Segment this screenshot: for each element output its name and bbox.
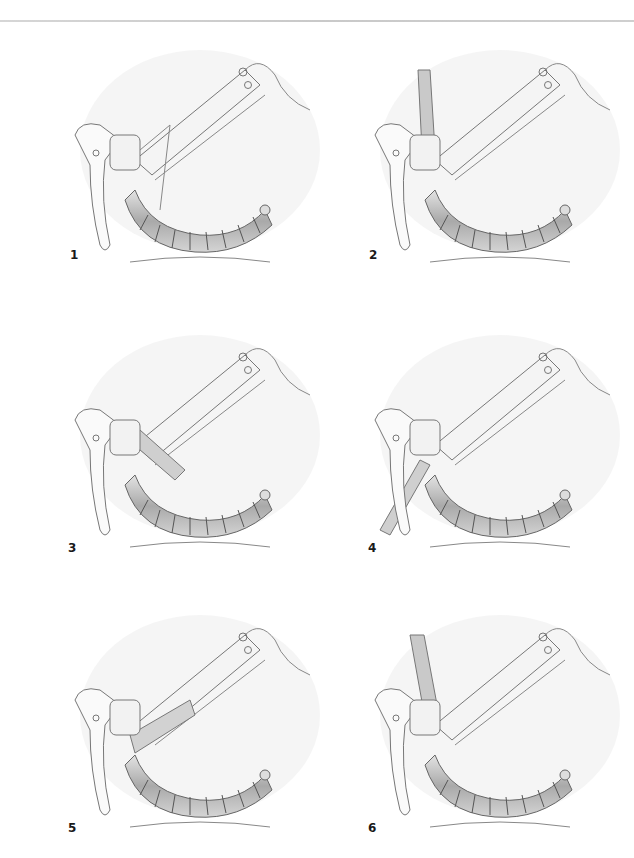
step-4-panel <box>360 315 620 575</box>
bar-tape-illustration-icon <box>60 315 320 575</box>
bar-tape-illustration-icon <box>360 315 620 575</box>
step-number-2: 2 <box>369 248 377 262</box>
step-number-1: 1 <box>70 248 78 262</box>
bar-tape-illustration-icon <box>360 595 620 855</box>
step-3-panel <box>60 315 320 575</box>
step-number-3: 3 <box>68 541 76 555</box>
step-5-panel <box>60 595 320 855</box>
step-2-panel <box>360 30 620 290</box>
step-number-6: 6 <box>368 821 376 835</box>
step-6-panel <box>360 595 620 855</box>
step-1-panel <box>60 30 320 290</box>
bar-tape-illustration-icon <box>360 30 620 290</box>
bar-tape-illustration-icon <box>60 595 320 855</box>
top-divider <box>0 20 634 22</box>
bar-tape-illustration-icon <box>60 30 320 290</box>
step-number-4: 4 <box>368 541 376 555</box>
step-number-5: 5 <box>68 821 76 835</box>
